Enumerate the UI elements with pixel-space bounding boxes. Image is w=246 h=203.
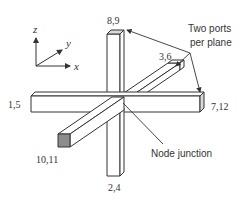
two-ports-label-line2: per plane (190, 37, 232, 48)
right-port-cap (200, 92, 204, 112)
axes-triad (36, 38, 70, 66)
port-label-back: 3,6 (159, 51, 172, 62)
front-port-face (58, 134, 70, 147)
two-ports-label-line1: Two ports (188, 23, 231, 34)
port-label-front: 10,11 (36, 154, 58, 165)
z-axis-label: z (32, 23, 38, 35)
vertical-bar-upper (107, 30, 124, 98)
node-junction-label: Node junction (151, 148, 212, 159)
node-junction-diagram: z y x (0, 0, 246, 203)
x-axis-label: x (73, 60, 79, 72)
port-label-right: 7,12 (211, 101, 229, 112)
port-label-bottom: 2,4 (108, 182, 121, 193)
y-axis-label: y (65, 37, 71, 49)
y-axis-arrow (36, 50, 62, 66)
port-label-top: 8,9 (107, 15, 120, 26)
port-label-left: 1,5 (8, 99, 21, 110)
